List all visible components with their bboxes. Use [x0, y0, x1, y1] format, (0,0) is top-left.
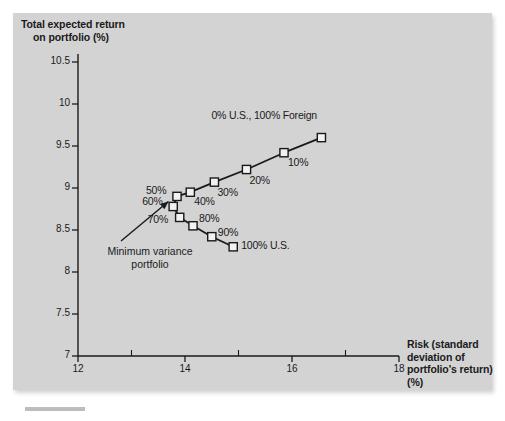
data-point-label: 20% [250, 174, 270, 186]
data-point-label: 80% [199, 212, 219, 224]
x-tick-label: 12 [63, 363, 93, 374]
data-series-line [169, 134, 325, 251]
y-tick-label: 10 [36, 97, 70, 108]
x-tick-label: 18 [384, 363, 414, 374]
data-point-label: 10% [288, 156, 308, 168]
y-tick-label: 9.5 [36, 139, 70, 150]
minimum-variance-annotation: Minimum variance portfolio [75, 245, 225, 271]
data-point-label: 40% [194, 195, 214, 207]
data-point-label: 0% U.S., 100% Foreign [211, 109, 317, 121]
x-tick-label: 16 [277, 363, 307, 374]
y-tick-label: 10.5 [36, 55, 70, 66]
data-point-label: 70% [148, 213, 168, 225]
annotation-line2: portfolio [131, 258, 168, 270]
footer-rule [25, 407, 85, 411]
y-tick-label: 7.5 [36, 307, 70, 318]
data-point-label: 90% [218, 226, 238, 238]
y-tick-label: 8.5 [36, 223, 70, 234]
y-tick-label: 7 [36, 349, 70, 360]
y-tick-label: 8 [36, 265, 70, 276]
x-tick-label: 14 [170, 363, 200, 374]
chart-plot-area [13, 13, 492, 390]
annotation-line1: Minimum variance [107, 245, 192, 257]
y-tick-label: 9 [36, 181, 70, 192]
data-point-label: 30% [217, 186, 237, 198]
data-point-label: 100% U.S. [241, 239, 289, 251]
axes-group [72, 54, 399, 362]
chart-figure-panel: Total expected return on portfolio (%) R… [13, 13, 492, 390]
data-point-label: 60% [142, 195, 162, 207]
